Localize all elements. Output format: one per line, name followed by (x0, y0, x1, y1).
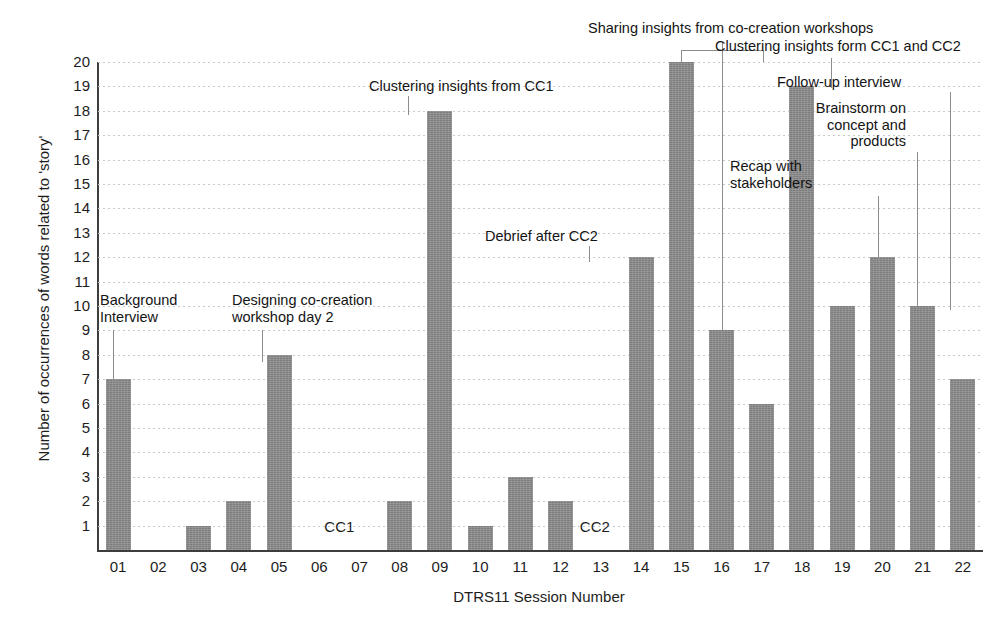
x-tick-label: 20 (862, 558, 902, 575)
annotation-label: Clustering insights form CC1 and CC2 (715, 38, 961, 55)
bar (267, 355, 292, 550)
bar (508, 477, 533, 550)
x-tick-label: 13 (581, 558, 621, 575)
annotation-label: Recap with stakeholders (730, 158, 812, 191)
x-tick-label: 07 (339, 558, 379, 575)
x-tick-label: 15 (661, 558, 701, 575)
bar-chart-figure: Number of occurrences of words related t… (0, 0, 1008, 637)
bar (468, 526, 493, 550)
annotation-label: Brainstorm on concept and products (746, 100, 906, 150)
x-axis-title-text: DTRS11 Session Number (383, 588, 624, 605)
bar (226, 501, 251, 550)
gridline (98, 257, 983, 258)
bar (709, 330, 734, 550)
x-tick-label: 05 (259, 558, 299, 575)
gridline (98, 62, 983, 63)
annotation-label: Clustering insights from CC1 (369, 78, 554, 95)
gridline (98, 282, 983, 283)
annotation-leader-line (950, 92, 951, 310)
x-axis-line (98, 550, 983, 552)
annotation-label: Designing co-creation workshop day 2 (232, 292, 372, 325)
annotation-leader-line (917, 152, 918, 310)
y-tick-label: 13 (56, 225, 90, 240)
y-tick-label: 4 (56, 444, 90, 459)
inline-label-cc2: CC2 (565, 518, 625, 535)
y-tick-label: 6 (56, 396, 90, 411)
y-tick-label: 14 (56, 200, 90, 215)
annotation-leader-line (262, 330, 263, 362)
bar (870, 257, 895, 550)
y-tick-label: 12 (56, 249, 90, 264)
x-tick-label: 22 (943, 558, 983, 575)
bar (830, 306, 855, 550)
x-tick-label: 12 (541, 558, 581, 575)
gridline (98, 160, 983, 161)
y-tick-label: 5 (56, 420, 90, 435)
bar (629, 257, 654, 550)
bar (950, 379, 975, 550)
bar (910, 306, 935, 550)
inline-label-cc1: CC1 (309, 518, 369, 535)
bar (186, 526, 211, 550)
y-tick-label: 2 (56, 493, 90, 508)
x-tick-label: 06 (299, 558, 339, 575)
x-tick-label: 17 (742, 558, 782, 575)
x-tick-label: 08 (380, 558, 420, 575)
annotation-bracket-stem (722, 42, 723, 342)
x-tick-label: 16 (702, 558, 742, 575)
x-tick-label: 14 (621, 558, 661, 575)
bar (749, 404, 774, 550)
annotation-label: Sharing insights from co-creation worksh… (588, 20, 873, 37)
y-tick-label: 10 (56, 298, 90, 313)
x-tick-label: 02 (138, 558, 178, 575)
y-tick-label: 15 (56, 176, 90, 191)
x-axis-title: DTRS11 Session Number (0, 588, 1008, 605)
annotation-label: Debrief after CC2 (485, 228, 598, 245)
annotation-label: Background Interview (100, 292, 177, 325)
x-tick-label: 09 (420, 558, 460, 575)
x-tick-label: 03 (179, 558, 219, 575)
y-tick-label: 17 (56, 127, 90, 142)
x-tick-label: 21 (903, 558, 943, 575)
y-tick-label: 8 (56, 347, 90, 362)
bar (387, 501, 412, 550)
y-tick-label: 16 (56, 152, 90, 167)
y-tick-label: 11 (56, 274, 90, 289)
bar (669, 62, 694, 550)
y-tick-label: 18 (56, 103, 90, 118)
y-tick-label: 1 (56, 518, 90, 533)
y-tick-label: 20 (56, 54, 90, 69)
gridline (98, 184, 983, 185)
y-axis-title: Number of occurrences of words related t… (35, 64, 52, 534)
y-tick-label: 19 (56, 78, 90, 93)
y-tick-label: 7 (56, 371, 90, 386)
x-tick-label: 18 (782, 558, 822, 575)
annotation-leader-line (878, 196, 879, 293)
x-tick-label: 11 (500, 558, 540, 575)
annotation-leader-line (113, 330, 114, 386)
bar (789, 86, 814, 550)
x-tick-label: 01 (98, 558, 138, 575)
x-tick-label: 04 (219, 558, 259, 575)
x-tick-label: 10 (460, 558, 500, 575)
gridline (98, 208, 983, 209)
bar (106, 379, 131, 550)
bar (427, 111, 452, 550)
annotation-leader-line (589, 246, 590, 262)
x-tick-label: 19 (822, 558, 862, 575)
y-tick-label: 9 (56, 322, 90, 337)
annotation-label: Follow-up interview (777, 74, 901, 91)
annotation-leader-line (408, 96, 409, 115)
y-tick-label: 3 (56, 469, 90, 484)
